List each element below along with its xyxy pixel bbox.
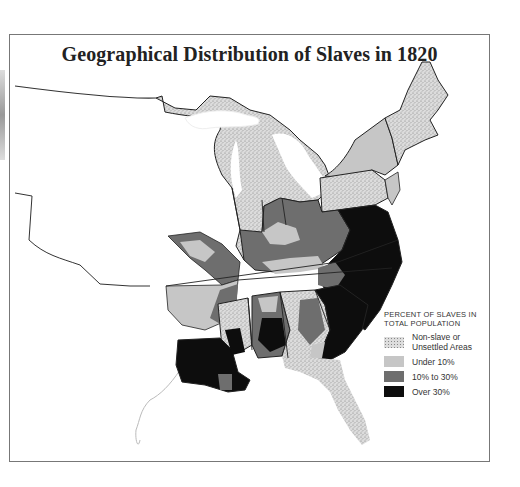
region-newyork-under10: [325, 118, 398, 178]
region-newjersey-under10: [385, 172, 400, 205]
legend: PERCENT OF SLAVES IN TOTAL POPULATION No…: [384, 310, 484, 397]
legend-item-10to30: 10% to 30%: [384, 371, 484, 382]
legend-label: Over 30%: [412, 387, 450, 397]
region-florida-nonslave: [282, 356, 370, 445]
legend-item-under10: Under 10%: [384, 356, 484, 367]
legend-heading-line2: TOTAL POPULATION: [384, 319, 484, 328]
texas-coastline: [136, 370, 180, 444]
map-canvas: [0, 0, 520, 487]
region-newengland-nonslave: [385, 62, 448, 165]
dark-gray-swatch-icon: [384, 371, 404, 382]
legend-label-line2: Unsettled Areas: [412, 342, 472, 352]
black-swatch-icon: [384, 386, 404, 397]
western-boundary-line: [15, 193, 150, 286]
stipple-swatch-icon: [384, 337, 404, 348]
legend-heading-line1: PERCENT OF SLAVES IN: [384, 310, 484, 319]
legend-item-over30: Over 30%: [384, 386, 484, 397]
legend-label: 10% to 30%: [412, 372, 458, 382]
region-louisiana-10to30: [218, 374, 232, 390]
legend-label-line1: Non-slave or: [412, 332, 472, 342]
light-gray-swatch-icon: [384, 356, 404, 367]
legend-label: Under 10%: [412, 357, 455, 367]
legend-label: Non-slave or Unsettled Areas: [412, 332, 472, 352]
legend-heading: PERCENT OF SLAVES IN TOTAL POPULATION: [384, 310, 484, 328]
region-pennsylvania-nonslave: [320, 170, 388, 212]
northern-boundary-line: [15, 86, 156, 98]
legend-item-nonslave: Non-slave or Unsettled Areas: [384, 332, 484, 352]
